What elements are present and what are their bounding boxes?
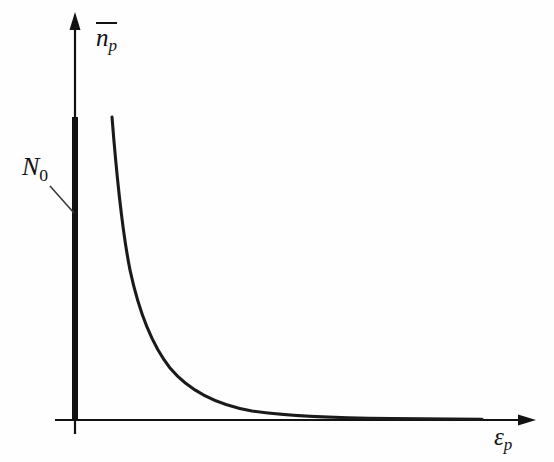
figure-root: np εp N0 (0, 0, 554, 462)
y-axis-label: np (96, 22, 117, 55)
condensate-subscript: 0 (39, 165, 48, 185)
x-axis-label: εp (494, 423, 512, 455)
y-axis-subscript: p (109, 36, 118, 55)
x-axis-symbol: ε (494, 423, 504, 450)
y-axis-overline-group: np (96, 22, 117, 55)
y-axis-arrowhead (70, 12, 81, 30)
condensate-label: N0 (22, 152, 48, 186)
x-axis-subscript: p (504, 435, 513, 454)
n0-leader-line (50, 186, 74, 213)
condensate-symbol: N (22, 152, 39, 181)
y-axis-symbol: n (96, 24, 109, 51)
plot-canvas (0, 0, 554, 462)
occupation-curve (112, 117, 482, 419)
x-axis-arrowhead (518, 415, 536, 426)
